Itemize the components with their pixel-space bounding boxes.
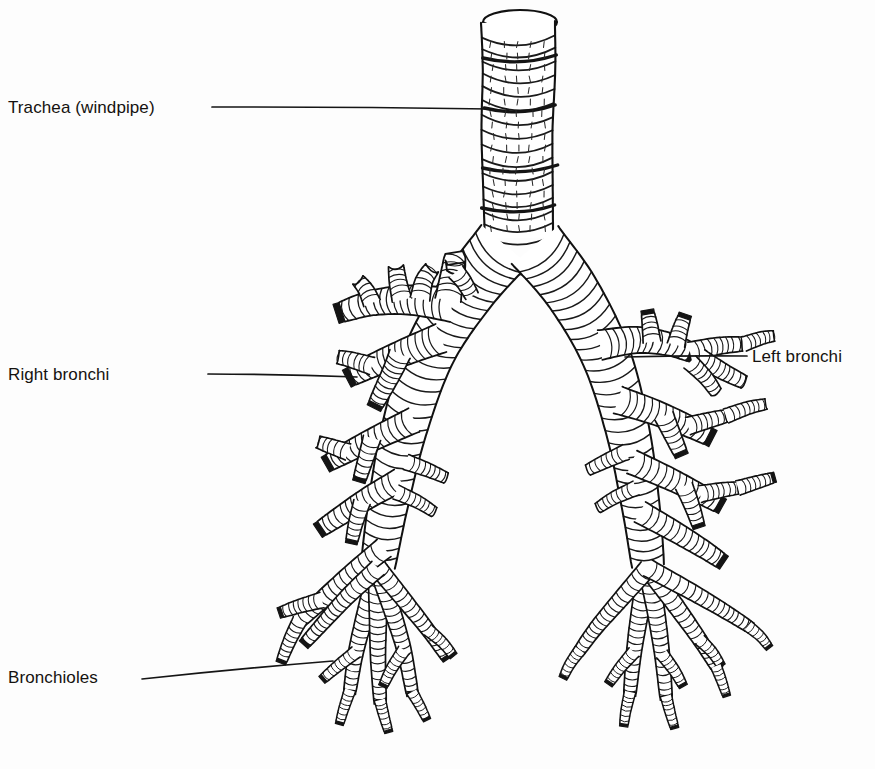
trachea-striation bbox=[519, 214, 520, 220]
trachea-striation bbox=[518, 88, 519, 94]
trachea-striation bbox=[542, 88, 543, 94]
trachea-striation bbox=[544, 134, 545, 140]
trachea-striation bbox=[494, 134, 495, 140]
trachea-striation bbox=[489, 99, 490, 105]
figure-page: Trachea (windpipe) Right bronchi Left br… bbox=[0, 0, 875, 769]
terminal-tip bbox=[620, 723, 629, 727]
label-bronchioles: Bronchioles bbox=[8, 668, 98, 688]
trachea-striation bbox=[529, 53, 530, 59]
trachea-striation bbox=[506, 122, 507, 128]
trachea-striation bbox=[492, 122, 493, 128]
label-right-bronchi: Right bronchi bbox=[8, 365, 109, 385]
trachea-striation bbox=[544, 53, 545, 59]
leader-line-trachea bbox=[212, 107, 490, 109]
trachea-striation bbox=[545, 226, 546, 232]
tube-cap bbox=[773, 331, 774, 341]
trachea-striation bbox=[519, 134, 520, 140]
leader-line-bronchioles bbox=[142, 661, 333, 679]
bronchial-tree-art bbox=[276, 10, 777, 734]
trachea-striation bbox=[507, 226, 508, 232]
leader-line-right_bronchi bbox=[208, 374, 357, 377]
trachea-striation bbox=[529, 145, 530, 151]
label-trachea: Trachea (windpipe) bbox=[8, 98, 155, 118]
trachea-striation bbox=[506, 65, 507, 71]
trachea-striation bbox=[493, 157, 494, 163]
trachea-striation bbox=[544, 42, 545, 48]
label-left-bronchi: Left bronchi bbox=[752, 347, 842, 367]
